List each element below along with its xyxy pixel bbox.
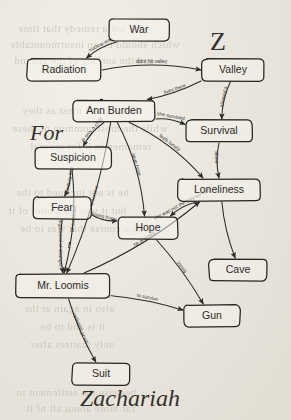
edge-label-valley-annburden: lives there — [163, 82, 187, 95]
node-label-suspicion: Suspicion — [50, 151, 96, 163]
edge-label-hope-gun: lonely — [176, 260, 189, 275]
node-label-loomis: Mr. Loomis — [37, 279, 88, 291]
node-label-cave: Cave — [226, 263, 251, 275]
node-label-radiation: Radiation — [42, 63, 87, 75]
node-label-fear: Fear — [51, 201, 73, 213]
edge-label-annburden-loneliness: feels lonely — [158, 132, 182, 152]
edge-label-fear-loomis: frightened of stranger — [58, 220, 65, 268]
edge-label-radiation-valley: didnt hit valley — [136, 58, 168, 64]
node-label-hope: Hope — [135, 221, 160, 233]
node-label-survival: Survival — [200, 124, 237, 136]
edge-label-valley-survival: allowed a — [218, 85, 229, 107]
title-word-for: For — [29, 120, 63, 145]
node-label-loneliness: Loneliness — [194, 183, 244, 195]
node-label-gun: Gun — [202, 309, 222, 321]
edge-loneliness-cave — [222, 202, 235, 258]
node-label-war: War — [130, 23, 149, 35]
node-label-annburden: Ann Burden — [86, 104, 142, 116]
node-label-suit: Suit — [92, 367, 110, 379]
edge-label-loomis-suit: radiation proof — [72, 312, 90, 344]
title-word-zachariah: Zachariah — [80, 385, 180, 411]
edge-radiation-valley — [102, 65, 201, 70]
edge-hope-gun — [157, 240, 204, 304]
concept-map-canvas: nuclear wardidnt hit valleylives thereal… — [0, 0, 291, 420]
edge-label-survival-loneliness: alone — [214, 151, 220, 163]
node-label-valley: Valley — [219, 63, 248, 75]
title-letter-z: Z — [210, 27, 226, 56]
edge-label-annburden-hope: gave hope — [131, 152, 143, 176]
